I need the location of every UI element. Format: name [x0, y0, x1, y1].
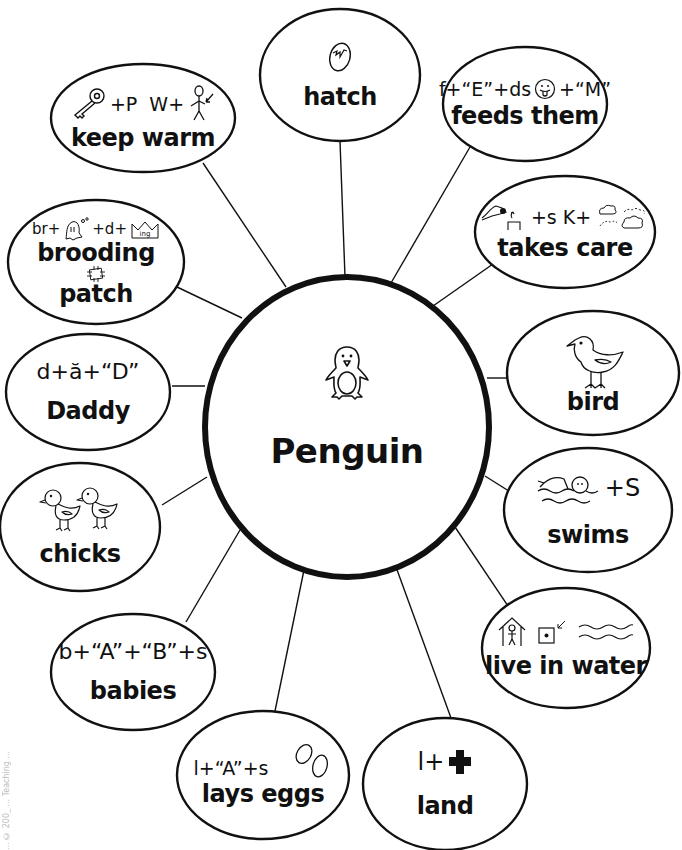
- connector-lays-eggs: [275, 570, 304, 711]
- node-label: chicks: [39, 542, 120, 567]
- node-daddy: d+ă+“D” Daddy: [6, 334, 170, 450]
- node-label-2: patch: [59, 282, 133, 307]
- rebus-text: d+ă+“D”: [37, 360, 140, 384]
- tongue-face-icon: [534, 78, 556, 100]
- clouds-icon: [594, 202, 650, 232]
- rebus-row: l+: [418, 749, 473, 775]
- ghost-icon: [63, 217, 89, 241]
- node-keep-warm: +P W+ keep warm: [51, 64, 235, 172]
- rebus-row: [497, 616, 635, 648]
- rebus-row: l+“A”+s: [194, 742, 333, 780]
- rebus-text: +S: [605, 475, 640, 501]
- node-label: babies: [90, 679, 176, 704]
- stick-figure-pointing-icon: [187, 84, 215, 124]
- node-label: land: [417, 794, 474, 819]
- margin-copyright-note: ... © 200_ ... Teaching ...: [2, 600, 16, 850]
- rebus-row: f+“E”+ds +“M”: [439, 78, 611, 100]
- node-label: takes care: [497, 236, 632, 261]
- connector-land: [396, 567, 451, 718]
- water-waves-icon: [577, 621, 635, 643]
- node-label: lays eggs: [202, 782, 324, 807]
- square-dot-icon: [537, 619, 567, 645]
- two-eggs-icon: [292, 742, 332, 780]
- bird-icon: [561, 330, 625, 390]
- rebus-text: +“M”: [559, 79, 611, 100]
- node-bird: bird: [507, 311, 679, 435]
- node-brooding-patch: br+ +d+ ing brooding patch: [8, 200, 184, 324]
- penguin-icon: [324, 344, 370, 406]
- key-icon: [71, 87, 107, 121]
- node-label: feeds them: [451, 104, 599, 129]
- swimmer-icon: [536, 471, 602, 505]
- connector-chicks: [162, 477, 207, 505]
- hand-take-icon: [480, 202, 528, 232]
- house-person-icon: [497, 616, 527, 648]
- rebus-row: d+ă+“D”: [37, 360, 140, 384]
- rebus-text: f+“E”+ds: [439, 79, 531, 100]
- rebus-row: +s K+: [480, 202, 650, 232]
- node-chicks: chicks: [0, 463, 160, 591]
- rebus-text: +P W+: [110, 94, 184, 115]
- rebus-row: b+“A”+“B”+s: [58, 640, 207, 664]
- rebus-text: +s K+: [531, 207, 591, 228]
- rebus-text: l+“A”+s: [194, 758, 269, 779]
- node-takes-care: +s K+ takes care: [475, 176, 655, 288]
- node-label: Daddy: [46, 399, 130, 424]
- svg-text:ing: ing: [140, 230, 151, 238]
- node-swims: +S swims: [504, 448, 672, 572]
- node-label: bird: [567, 390, 619, 415]
- center-node-penguin: Penguin: [205, 277, 489, 577]
- cracked-egg-icon: [325, 39, 355, 75]
- rebus-text: b+“A”+“B”+s: [58, 640, 207, 664]
- node-label: swims: [547, 523, 628, 548]
- rebus-row: br+ +d+ ing: [32, 217, 160, 241]
- rebus-text: +d+: [92, 221, 127, 238]
- center-label: Penguin: [270, 434, 423, 470]
- connector-hatch: [340, 141, 345, 277]
- connector-keep-warm: [203, 163, 286, 287]
- node-label: live in water: [485, 654, 647, 679]
- rebus-row: +S: [536, 471, 640, 505]
- crown-ing-icon: ing: [130, 219, 160, 239]
- two-chicks-icon: [38, 486, 122, 534]
- node-live-in-water: live in water: [482, 588, 650, 708]
- node-lays-eggs: l+“A”+s lays eggs: [177, 711, 349, 839]
- rebus-row: +P W+: [71, 84, 215, 124]
- node-label: keep warm: [71, 126, 215, 151]
- node-hatch: hatch: [260, 9, 420, 141]
- node-label: hatch: [303, 85, 377, 110]
- connector-feeds-them: [391, 147, 470, 283]
- node-feeds-them: f+“E”+ds +“M” feeds them: [443, 47, 607, 161]
- node-label: brooding: [37, 241, 155, 266]
- rebus-text: br+: [32, 221, 60, 238]
- bold-plus-icon: [448, 749, 472, 775]
- node-land: l+ land: [363, 718, 527, 850]
- rebus-text: l+: [418, 749, 445, 775]
